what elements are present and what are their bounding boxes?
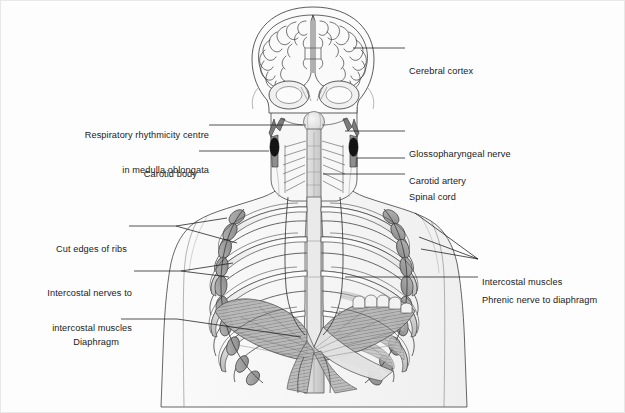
label-carotid-body: Carotid body [1, 146, 197, 204]
label-phrenic-nerve-to-diaphragm: Phrenic nerve to diaphragm [482, 272, 597, 330]
label-line: Diaphragm [1, 337, 119, 349]
sternum [307, 197, 321, 347]
label-line: Phrenic nerve to diaphragm [482, 295, 597, 307]
carotid-body-left [270, 138, 279, 156]
label-line: Spinal cord [409, 192, 456, 204]
label-line: Cut edges of ribs [1, 244, 127, 256]
label-line: Carotid body [1, 169, 197, 181]
label-line: Intercostal nerves to [1, 288, 132, 300]
anatomy-figure: Respiratory rhythmicity centre in medull… [0, 0, 625, 413]
label-spinal-cord: Spinal cord [409, 169, 456, 227]
label-line: Cerebral cortex [409, 66, 473, 78]
label-diaphragm: Diaphragm [1, 314, 119, 372]
carotid-body-right [349, 138, 358, 156]
label-cerebral-cortex: Cerebral cortex [409, 43, 473, 101]
label-line: Respiratory rhythmicity centre [1, 130, 209, 142]
